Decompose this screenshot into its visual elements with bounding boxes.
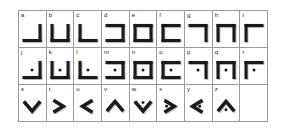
cipher-cell-empty bbox=[240, 85, 268, 122]
cipher-letter-label: s bbox=[21, 85, 24, 93]
cipher-cell-d: d bbox=[102, 11, 130, 48]
cipher-cell-j: j bbox=[19, 48, 47, 85]
cipher-letter-label: j bbox=[21, 48, 22, 56]
cipher-cell-k: k bbox=[47, 48, 75, 85]
pigpen-glyph-chevron-left-icon bbox=[185, 93, 212, 120]
cipher-letter-label: l bbox=[76, 48, 77, 56]
pigpen-glyph-corner-bottom-left-icon bbox=[74, 19, 101, 46]
cipher-letter-label: f bbox=[159, 11, 161, 19]
cipher-cell-i: i bbox=[240, 11, 268, 48]
cipher-letter-label: x bbox=[159, 85, 162, 93]
cipher-cell-t: t bbox=[47, 85, 75, 122]
pigpen-glyph-chevron-up-icon bbox=[213, 93, 240, 120]
cipher-letter-label: y bbox=[187, 85, 190, 93]
cipher-letter-label: u bbox=[76, 85, 79, 93]
cipher-letter-label: z bbox=[215, 85, 218, 93]
cipher-row: stuvwxyz bbox=[19, 85, 268, 122]
cipher-cell-m: m bbox=[102, 48, 130, 85]
pigpen-glyph-chevron-down-icon bbox=[19, 93, 46, 120]
cipher-letter-label: r bbox=[242, 48, 244, 56]
cipher-cell-v: v bbox=[102, 85, 130, 122]
pigpen-glyph-u-open-top-icon bbox=[47, 56, 74, 83]
pigpen-glyph-u-open-bottom-icon bbox=[213, 19, 240, 46]
cipher-letter-label: o bbox=[159, 48, 162, 56]
cipher-letter-label: w bbox=[132, 85, 136, 93]
pigpen-glyph-chevron-left-icon bbox=[74, 93, 101, 120]
cipher-cell-y: y bbox=[185, 85, 213, 122]
pigpen-glyph-corner-bottom-left-icon bbox=[74, 56, 101, 83]
pigpen-cipher-chart: abcdefghijklmnopqrstuvwxyz bbox=[18, 10, 268, 122]
cipher-letter-label: e bbox=[132, 11, 135, 19]
cipher-row: jklmnopqr bbox=[19, 48, 268, 85]
cipher-cell-b: b bbox=[47, 11, 75, 48]
cipher-letter-label: h bbox=[215, 11, 218, 19]
pigpen-glyph-square-closed-icon bbox=[130, 19, 157, 46]
pigpen-glyph-square-closed-icon bbox=[130, 56, 157, 83]
cipher-cell-g: g bbox=[185, 11, 213, 48]
cipher-cell-f: f bbox=[157, 11, 185, 48]
cipher-cell-u: u bbox=[74, 85, 102, 122]
pigpen-glyph-u-open-left-icon bbox=[102, 19, 129, 46]
cipher-letter-label: a bbox=[21, 11, 24, 19]
cipher-letter-label: t bbox=[49, 85, 51, 93]
cipher-cell-l: l bbox=[74, 48, 102, 85]
pigpen-glyph-corner-bottom-right-icon bbox=[19, 19, 46, 46]
cipher-cell-e: e bbox=[130, 11, 158, 48]
pigpen-glyph-u-open-right-icon bbox=[157, 56, 184, 83]
cipher-letter-label: b bbox=[49, 11, 52, 19]
pigpen-glyph-u-open-right-icon bbox=[157, 19, 184, 46]
pigpen-glyph-corner-top-left-icon bbox=[240, 56, 267, 83]
cipher-letter-label: v bbox=[104, 85, 107, 93]
cipher-letter-label: g bbox=[187, 11, 190, 19]
cipher-cell-s: s bbox=[19, 85, 47, 122]
pigpen-glyph-u-open-left-icon bbox=[102, 56, 129, 83]
cipher-letter-label: d bbox=[104, 11, 107, 19]
pigpen-glyph-corner-top-left-icon bbox=[240, 19, 267, 46]
cipher-cell-o: o bbox=[157, 48, 185, 85]
pigpen-glyph-chevron-up-icon bbox=[102, 93, 129, 120]
cipher-letter-label: m bbox=[104, 48, 109, 56]
cipher-letter-label: p bbox=[187, 48, 190, 56]
cipher-cell-a: a bbox=[19, 11, 47, 48]
cipher-cell-z: z bbox=[213, 85, 241, 122]
cipher-letter-label: i bbox=[242, 11, 243, 19]
cipher-cell-p: p bbox=[185, 48, 213, 85]
pigpen-glyph-chevron-right-icon bbox=[47, 93, 74, 120]
pigpen-glyph-corner-top-right-icon bbox=[185, 56, 212, 83]
cipher-cell-h: h bbox=[213, 11, 241, 48]
cipher-cell-n: n bbox=[130, 48, 158, 85]
cipher-row: abcdefghi bbox=[19, 11, 268, 48]
pigpen-glyph-corner-bottom-right-icon bbox=[19, 56, 46, 83]
pigpen-glyph-chevron-right-icon bbox=[157, 93, 184, 120]
cipher-cell-q: q bbox=[213, 48, 241, 85]
cipher-letter-label: n bbox=[132, 48, 135, 56]
pigpen-glyph-chevron-down-icon bbox=[130, 93, 157, 120]
cipher-letter-label: q bbox=[215, 48, 218, 56]
cipher-cell-x: x bbox=[157, 85, 185, 122]
pigpen-glyph-u-open-top-icon bbox=[47, 19, 74, 46]
cipher-cell-r: r bbox=[240, 48, 268, 85]
cipher-cell-w: w bbox=[130, 85, 158, 122]
pigpen-glyph-u-open-bottom-icon bbox=[213, 56, 240, 83]
cipher-cell-c: c bbox=[74, 11, 102, 48]
pigpen-glyph-corner-top-right-icon bbox=[185, 19, 212, 46]
cipher-letter-label: k bbox=[49, 48, 52, 56]
cipher-letter-label: c bbox=[76, 11, 79, 19]
